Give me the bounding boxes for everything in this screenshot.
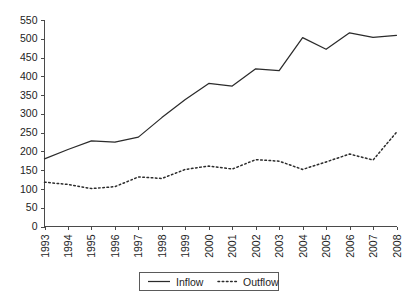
x-axis-tick-label: 2007	[367, 234, 379, 258]
series-line-inflow	[45, 33, 397, 159]
y-axis-tick-label: 450	[20, 51, 38, 63]
y-axis-tick-label: 300	[20, 107, 38, 119]
y-axis-tick-labels: 050100150200250300350400450500550	[20, 14, 38, 233]
y-axis-tick-label: 100	[20, 183, 38, 195]
x-axis-tick-label: 1993	[39, 234, 51, 258]
x-axis-tick-label: 2006	[344, 234, 356, 258]
y-axis-tick-marks	[41, 21, 45, 228]
y-axis-tick-label: 50	[26, 201, 38, 213]
line-chart: 050100150200250300350400450500550 199319…	[0, 0, 417, 300]
x-axis-tick-label: 1997	[132, 234, 144, 258]
x-axis-tick-label: 2005	[320, 234, 332, 258]
y-axis-tick-label: 350	[20, 89, 38, 101]
legend-label-outflow: Outflow	[243, 276, 279, 288]
x-axis-tick-label: 2008	[391, 234, 403, 258]
y-axis-tick-label: 200	[20, 145, 38, 157]
x-axis-tick-label: 1998	[156, 234, 168, 258]
legend-label-inflow: Inflow	[176, 276, 204, 288]
x-axis-tick-label: 1999	[179, 234, 191, 258]
x-axis-tick-marks	[46, 227, 398, 231]
x-axis-tick-label: 2000	[203, 234, 215, 258]
x-axis-tick-label: 2003	[273, 234, 285, 258]
x-axis-tick-labels: 1993199419951996199719981999200020012002…	[39, 234, 403, 258]
y-axis-tick-label: 150	[20, 164, 38, 176]
y-axis-tick-label: 400	[20, 70, 38, 82]
x-axis-tick-label: 2002	[250, 234, 262, 258]
x-axis-tick-label: 2004	[297, 234, 309, 258]
x-axis-tick-label: 1996	[109, 234, 121, 258]
x-axis-tick-label: 1994	[62, 234, 74, 258]
x-axis-tick-label: 2001	[226, 234, 238, 258]
y-axis-tick-label: 0	[32, 220, 38, 232]
y-axis-tick-label: 550	[20, 14, 38, 26]
x-axis-tick-label: 1995	[85, 234, 97, 258]
chart-container: 050100150200250300350400450500550 199319…	[0, 0, 417, 300]
chart-legend: Inflow Outflow	[140, 273, 280, 291]
y-axis-tick-label: 500	[20, 32, 38, 44]
y-axis-tick-label: 250	[20, 126, 38, 138]
